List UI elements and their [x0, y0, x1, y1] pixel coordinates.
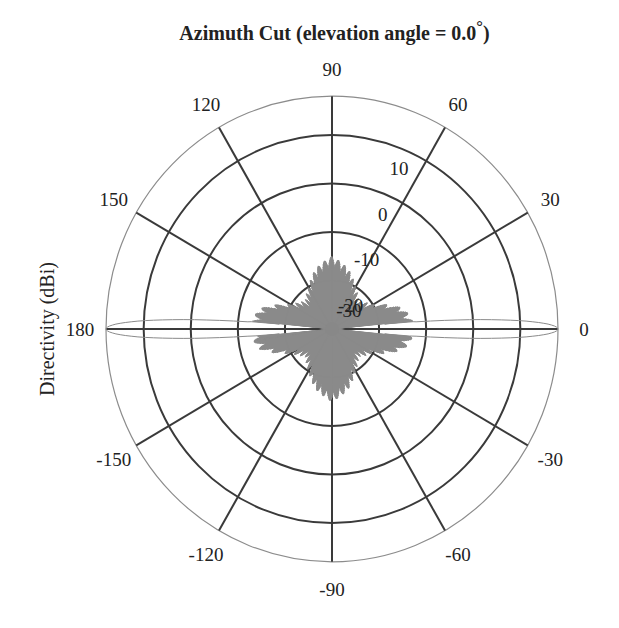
center-blob [325, 322, 339, 336]
angle-tick-label: 60 [449, 94, 468, 115]
angle-tick-label: -30 [538, 449, 563, 470]
angle-tick-label: -60 [445, 544, 470, 565]
angle-tick-label: 180 [66, 319, 95, 340]
radial-tick-label: 10 [389, 158, 408, 179]
angle-tick-label: -150 [96, 449, 131, 470]
radial-tick-label: -30 [336, 300, 361, 321]
radial-tick-label: -10 [354, 249, 379, 270]
radial-tick-label: 0 [378, 204, 388, 225]
angle-tick-label: -90 [319, 579, 344, 600]
polar-plot: 9060300-30-60-90-120-150180150120100-10-… [0, 0, 619, 628]
angle-tick-label: 150 [100, 189, 129, 210]
angle-tick-label: -120 [189, 544, 224, 565]
angle-tick-label: 30 [541, 189, 560, 210]
angle-tick-label: 120 [192, 94, 221, 115]
angle-tick-label: 90 [323, 59, 342, 80]
angle-tick-label: 0 [579, 319, 589, 340]
